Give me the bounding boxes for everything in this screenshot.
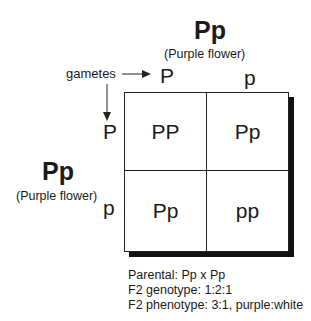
top-parent-phenotype: (Purple flower) (164, 47, 245, 61)
gametes-label: gametes (66, 66, 116, 81)
left-gamete-recessive: p (103, 196, 115, 220)
left-parent-genotype: Pp (42, 157, 74, 186)
left-parent-phenotype: (Purple flower) (16, 189, 97, 203)
left-gamete-dominant: P (103, 120, 117, 144)
summary-phenotype: F2 phenotype: 3:1, purple:white (128, 298, 303, 313)
summary-genotype: F2 genotype: 1:2:1 (128, 283, 232, 298)
cell-PP: PP (125, 93, 206, 170)
summary-parental: Parental: Pp x Pp (128, 268, 225, 283)
punnett-square: PP Pp Pp pp (124, 92, 289, 252)
cell-Pp-bottom-left: Pp (125, 171, 206, 251)
top-parent-genotype: Pp (194, 16, 226, 45)
cell-pp: pp (207, 171, 288, 251)
cell-Pp-top-right: Pp (207, 93, 288, 170)
down-arrow-icon (101, 84, 113, 122)
right-arrow-icon (122, 68, 152, 80)
top-gamete-dominant: P (160, 64, 174, 88)
top-gamete-recessive: p (244, 66, 256, 90)
